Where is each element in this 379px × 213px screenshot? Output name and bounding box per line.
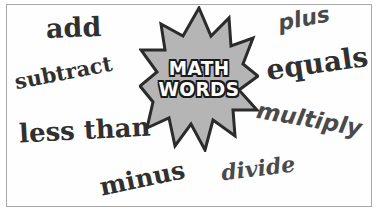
starburst-badge: MATH WORDS: [139, 6, 259, 152]
starburst-shape-icon: [139, 6, 259, 152]
word-add: add: [46, 13, 102, 42]
math-words-poster: add subtract less than minus plus equals…: [0, 0, 379, 213]
word-less-than: less than: [18, 114, 151, 147]
